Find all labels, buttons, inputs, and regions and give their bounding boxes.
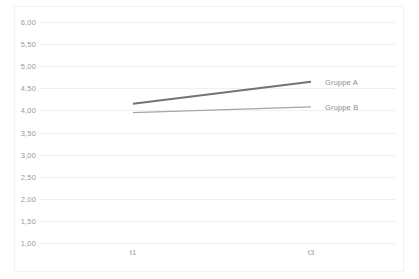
gridline: [40, 243, 396, 244]
series-layer: [40, 22, 396, 243]
y-tick-label: 3,00: [21, 150, 36, 159]
x-tick-label: t3: [308, 248, 315, 257]
y-tick-label: 5,50: [21, 40, 36, 49]
y-tick-label: 2,00: [21, 194, 36, 203]
y-tick-label: 1,50: [21, 216, 36, 225]
series-line-1: [133, 82, 311, 104]
y-tick-label: 6,00: [21, 18, 36, 27]
line-chart-figure: 6,005,505,004,504,003,503,002,502,001,50…: [0, 0, 419, 279]
y-tick-label: 4,50: [21, 84, 36, 93]
series-label-2: Gruppe B: [325, 102, 358, 111]
series-line-2: [133, 107, 311, 113]
x-tick-label: t1: [130, 248, 137, 257]
y-axis: 6,005,505,004,504,003,503,002,502,001,50…: [0, 0, 36, 265]
y-tick-label: 3,50: [21, 128, 36, 137]
y-tick-label: 1,00: [21, 239, 36, 248]
y-tick-label: 4,00: [21, 106, 36, 115]
y-tick-label: 5,00: [21, 62, 36, 71]
y-tick-label: 2,50: [21, 172, 36, 181]
plot-area: [40, 22, 396, 243]
series-label-1: Gruppe A: [325, 77, 358, 86]
